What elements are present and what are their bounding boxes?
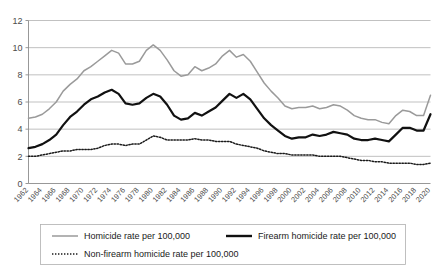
x-axis-tick-label: 1980: [137, 186, 155, 204]
x-axis-tick-label: 1972: [81, 186, 99, 204]
x-axis-tick-label: 1984: [164, 186, 182, 204]
x-axis-tick-label: 2018: [400, 186, 418, 204]
y-axis-tick-label: 8: [17, 70, 22, 80]
legend-label-non-firearm-homicide-rate: Non-firearm homicide rate per 100,000: [84, 249, 239, 259]
x-axis-tick-label: 1978: [123, 186, 141, 204]
x-axis-tick-label: 1994: [234, 186, 252, 204]
x-axis-tick-label: 2006: [317, 186, 335, 204]
x-axis-tick-label: 2000: [275, 186, 293, 204]
x-axis-tick-label: 2008: [331, 186, 349, 204]
x-axis-tick-label: 1992: [220, 186, 238, 204]
homicide-rate-line-chart: 024681012 196219641966196819701972197419…: [0, 0, 436, 272]
y-axis-tick-label: 12: [12, 16, 22, 26]
y-axis-tick-label: 6: [17, 97, 22, 107]
y-axis-tick-label: 2: [17, 152, 22, 162]
x-axis-tick-label: 1998: [262, 186, 280, 204]
x-axis-tick-label: 1996: [248, 186, 266, 204]
chart-svg: 024681012 196219641966196819701972197419…: [0, 0, 436, 272]
legend-label-homicide-rate: Homicide rate per 100,000: [84, 231, 190, 241]
x-axis-tick-label: 1966: [40, 186, 58, 204]
x-axis-tick-label: 2012: [359, 186, 377, 204]
x-axis-tick-label: 1976: [109, 186, 127, 204]
x-axis-tick-label: 2004: [303, 186, 321, 204]
x-axis-tick-label: 1990: [206, 186, 224, 204]
x-axis-tick-label: 2010: [345, 186, 363, 204]
x-axis-tick-label: 1964: [26, 186, 44, 204]
series-line-homicide-rate: [29, 45, 431, 124]
legend: Homicide rate per 100,000 Firearm homici…: [41, 225, 406, 265]
x-axis-tick-label: 2014: [372, 186, 390, 204]
x-axis-tick-label: 1986: [178, 186, 196, 204]
x-axis-tick-label: 2020: [414, 186, 432, 204]
x-axis-tick-label: 1982: [151, 186, 169, 204]
x-axis-tick-label: 2002: [289, 186, 307, 204]
x-axis-tick-labels: 1962196419661968197019721974197619781980…: [12, 186, 432, 204]
x-axis-tick-label: 1974: [95, 186, 113, 204]
x-axis-tick-label: 2016: [386, 186, 404, 204]
y-axis-tick-label: 4: [17, 124, 22, 134]
x-axis-tick-label: 1988: [192, 186, 210, 204]
y-axis-tick-label: 10: [12, 43, 22, 53]
x-axis-tick-label: 1968: [54, 186, 72, 204]
x-axis-tick-label: 1970: [67, 186, 85, 204]
x-axis-tick-label: 1962: [12, 186, 30, 204]
legend-label-firearm-homicide-rate: Firearm homicide rate per 100,000: [258, 231, 396, 241]
y-axis-tick-labels: 024681012: [12, 16, 22, 189]
